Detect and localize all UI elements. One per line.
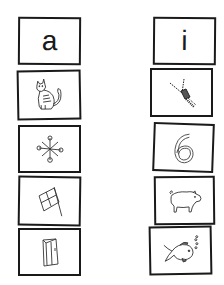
pig-icon [164, 187, 204, 213]
number-six-icon [170, 130, 197, 165]
zipper-icon [164, 75, 200, 111]
picture-card-bag [18, 228, 81, 276]
letter-i: i [181, 27, 187, 55]
jacks-icon [35, 134, 65, 164]
picture-card-fish [149, 225, 213, 275]
bag-icon [38, 236, 62, 268]
letter-a: a [42, 27, 58, 55]
picture-card-cat [17, 69, 82, 120]
flag-icon [33, 184, 65, 218]
cat-icon [31, 78, 68, 113]
fish-icon [159, 234, 202, 267]
letter-card-a: a [18, 17, 81, 65]
picture-card-zipper [150, 68, 213, 117]
picture-card-pig [154, 176, 216, 226]
picture-card-flag [18, 176, 82, 227]
picture-card-jacks [18, 125, 81, 173]
letter-card-i: i [153, 17, 216, 66]
picture-card-six [152, 122, 215, 173]
